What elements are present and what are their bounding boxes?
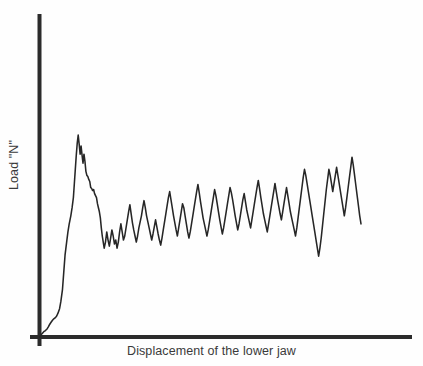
chart-plot-area bbox=[0, 0, 423, 366]
chart-background bbox=[0, 0, 423, 366]
y-axis-label: Load "N" bbox=[7, 130, 21, 200]
chart-figure: Displacement of the lower jaw Load "N" bbox=[0, 0, 423, 366]
x-axis-label: Displacement of the lower jaw bbox=[0, 344, 423, 358]
